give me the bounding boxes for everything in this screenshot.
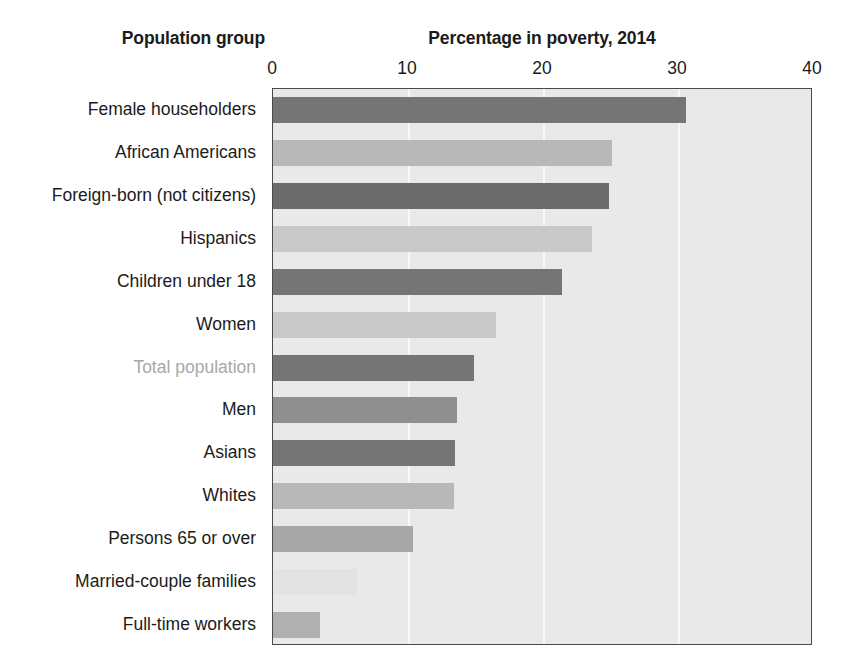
bar-married-couple-families: [273, 569, 357, 595]
category-label-asians: Asians: [0, 442, 264, 462]
poverty-bar-chart: Population group Percentage in poverty, …: [0, 0, 843, 668]
category-label-children-under-18: Children under 18: [0, 271, 264, 291]
bar-persons-65-or-over: [273, 526, 413, 552]
bar-women: [273, 312, 496, 338]
category-label-foreign-born-not-citizens: Foreign-born (not citizens): [0, 185, 264, 205]
bar-foreign-born-not-citizens: [273, 183, 609, 209]
x-axis-tick-labels: 010203040: [0, 58, 843, 84]
category-label-persons-65-or-over: Persons 65 or over: [0, 528, 264, 548]
bar-men: [273, 397, 457, 423]
category-label-female-householders: Female householders: [0, 99, 264, 119]
x-tick-label-0: 0: [267, 58, 277, 79]
bar-african-americans: [273, 140, 612, 166]
category-label-women: Women: [0, 314, 264, 334]
category-label-african-americans: African Americans: [0, 142, 264, 162]
category-labels: Female householdersAfrican AmericansFore…: [0, 88, 264, 645]
bar-total-population: [273, 355, 474, 381]
x-tick-label-10: 10: [397, 58, 416, 79]
bar-asians: [273, 440, 455, 466]
bar-whites: [273, 483, 454, 509]
bar-hispanics: [273, 226, 592, 252]
bars-layer: [273, 89, 811, 644]
x-tick-label-20: 20: [532, 58, 551, 79]
bar-children-under-18: [273, 269, 562, 295]
category-axis-title: Population group: [0, 28, 265, 49]
x-tick-label-40: 40: [802, 58, 821, 79]
category-label-full-time-workers: Full-time workers: [0, 614, 264, 634]
x-tick-label-30: 30: [667, 58, 686, 79]
category-label-total-population: Total population: [0, 357, 264, 377]
bar-full-time-workers: [273, 612, 320, 638]
category-label-married-couple-families: Married-couple families: [0, 571, 264, 591]
category-label-men: Men: [0, 399, 264, 419]
chart-header: Population group Percentage in poverty, …: [0, 28, 843, 52]
bar-female-householders: [273, 97, 686, 123]
value-axis-title: Percentage in poverty, 2014: [272, 28, 812, 49]
plot-area: [272, 88, 812, 645]
category-label-hispanics: Hispanics: [0, 228, 264, 248]
category-label-whites: Whites: [0, 485, 264, 505]
